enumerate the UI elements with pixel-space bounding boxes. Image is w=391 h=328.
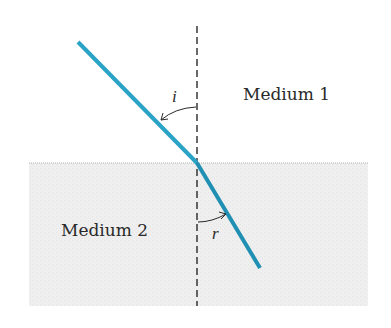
angle-r-label: r: [212, 224, 219, 243]
angle-i-label: i: [172, 87, 177, 106]
diagram-canvas: Medium 1 Medium 2 i r: [0, 0, 391, 328]
incident-ray: [78, 42, 197, 163]
angle-i-arc-icon: [161, 107, 196, 120]
medium-1-label: Medium 1: [243, 84, 330, 104]
refraction-diagram: Medium 1 Medium 2 i r: [0, 0, 391, 328]
medium-2-label: Medium 2: [61, 220, 148, 240]
